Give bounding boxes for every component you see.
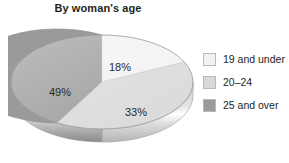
- legend-item-25-and-over[interactable]: 25 and over: [203, 94, 289, 117]
- legend-label-25-and-over: 25 and over: [223, 100, 278, 111]
- pie-chart-svg: [8, 20, 196, 148]
- legend-item-20-24[interactable]: 20–24: [203, 71, 289, 94]
- legend-swatch-icon-25-and-over: [203, 99, 216, 112]
- legend-swatch-icon-20-24: [203, 76, 216, 89]
- chart-legend: 19 and under 20–24 25 and over: [203, 48, 289, 117]
- legend-swatch-icon-19-and-under: [203, 53, 216, 66]
- legend-label-20-24: 20–24: [223, 77, 252, 88]
- legend-item-19-and-under[interactable]: 19 and under: [203, 48, 289, 71]
- legend-label-19-and-under: 19 and under: [223, 54, 285, 65]
- chart-figure: By woman's age: [0, 0, 289, 163]
- pie-chart: 18% 33% 49%: [8, 20, 196, 148]
- pie-slice-label-20-24: 33%: [125, 106, 147, 118]
- pie-slice-label-19-and-under: 18%: [109, 61, 131, 73]
- chart-title: By woman's age: [0, 2, 196, 14]
- pie-slice-label-25-and-over: 49%: [49, 86, 71, 98]
